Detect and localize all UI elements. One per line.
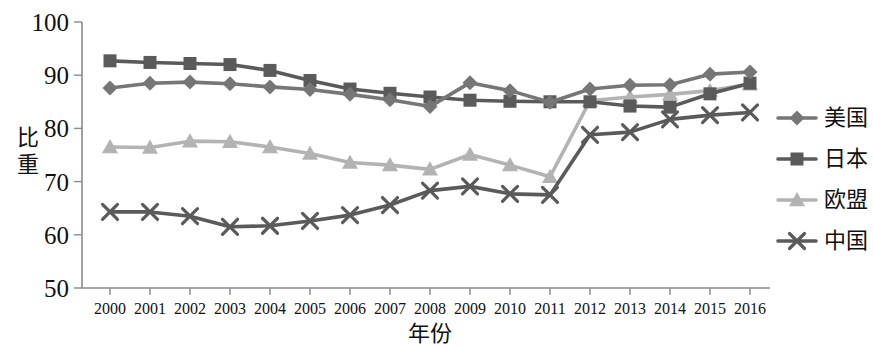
legend-label-日本: 日本 xyxy=(824,146,868,171)
marker-square xyxy=(184,57,197,70)
marker-diamond xyxy=(463,75,478,90)
marker-triangle xyxy=(462,146,478,160)
x-tick-label: 2004 xyxy=(254,300,286,317)
marker-diamond xyxy=(103,80,118,95)
y-axis-title-char: 比 xyxy=(17,125,39,150)
y-axis-title: 比重 xyxy=(17,125,39,177)
line-chart: 5060708090100200020012002200320042005200… xyxy=(0,0,873,350)
marker-square xyxy=(791,153,804,166)
marker-square xyxy=(464,94,477,107)
x-axis-title: 年份 xyxy=(408,321,452,346)
marker-diamond xyxy=(263,79,278,94)
x-axis-ticks: 2000200120022003200420052006200720082009… xyxy=(94,288,766,317)
marker-diamond xyxy=(703,67,718,82)
marker-square xyxy=(584,95,597,108)
legend: 美国日本欧盟中国 xyxy=(778,105,868,253)
marker-square xyxy=(624,100,637,113)
x-tick-label: 2011 xyxy=(534,300,565,317)
y-tick-label: 100 xyxy=(32,9,70,36)
marker-diamond xyxy=(790,111,805,126)
marker-diamond xyxy=(663,77,678,92)
marker-diamond xyxy=(223,76,238,91)
legend-label-美国: 美国 xyxy=(824,105,868,130)
marker-square xyxy=(224,58,237,71)
marker-square xyxy=(144,56,157,69)
marker-diamond xyxy=(583,82,598,97)
marker-diamond xyxy=(183,75,198,90)
legend-label-欧盟: 欧盟 xyxy=(824,187,868,212)
x-tick-label: 2005 xyxy=(294,300,326,317)
x-tick-label: 2015 xyxy=(694,300,726,317)
x-tick-label: 2002 xyxy=(174,300,206,317)
x-tick-label: 2007 xyxy=(374,300,406,317)
x-tick-label: 2010 xyxy=(494,300,526,317)
y-axis-title-char: 重 xyxy=(17,152,39,177)
y-axis-ticks: 5060708090100 xyxy=(32,9,83,302)
y-tick-label: 70 xyxy=(44,169,69,196)
marker-square xyxy=(264,64,277,77)
legend-item-欧盟[interactable]: 欧盟 xyxy=(778,187,868,212)
legend-item-美国[interactable]: 美国 xyxy=(778,105,868,130)
legend-item-日本[interactable]: 日本 xyxy=(778,146,868,171)
marker-diamond xyxy=(143,76,158,91)
x-tick-label: 2013 xyxy=(614,300,646,317)
x-tick-label: 2012 xyxy=(574,300,606,317)
x-tick-label: 2006 xyxy=(334,300,366,317)
x-tick-label: 2001 xyxy=(134,300,166,317)
marker-square xyxy=(664,101,677,114)
y-tick-label: 80 xyxy=(44,115,69,142)
legend-label-中国: 中国 xyxy=(824,228,868,253)
y-tick-label: 50 xyxy=(44,275,69,302)
y-tick-label: 60 xyxy=(44,222,69,249)
x-tick-label: 2003 xyxy=(214,300,246,317)
x-tick-label: 2014 xyxy=(654,300,686,317)
x-tick-label: 2000 xyxy=(94,300,126,317)
legend-item-中国[interactable]: 中国 xyxy=(778,228,868,253)
y-tick-label: 90 xyxy=(44,62,69,89)
marker-square xyxy=(104,54,117,67)
marker-diamond xyxy=(623,78,638,93)
marker-square xyxy=(704,87,717,100)
x-tick-label: 2008 xyxy=(414,300,446,317)
x-tick-label: 2016 xyxy=(734,300,766,317)
chart-canvas: 5060708090100200020012002200320042005200… xyxy=(0,0,873,350)
x-tick-label: 2009 xyxy=(454,300,486,317)
